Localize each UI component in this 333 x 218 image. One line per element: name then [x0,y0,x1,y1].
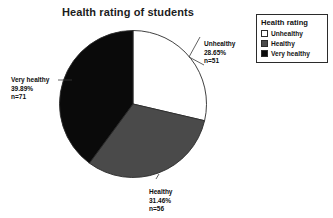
chart-title: Health rating of students [0,6,256,18]
callout-healthy: Healthy 31.46% n=56 [149,188,172,214]
legend-label-very-healthy: Very healthy [271,50,310,58]
callout-very-healthy: Very healthy 39.89% n=71 [11,76,49,102]
callout-very-healthy-category: Very healthy [11,76,49,85]
callout-healthy-percent: 31.46% [149,197,172,206]
callout-unhealthy-count: n=51 [204,57,235,66]
callout-unhealthy-category: Unhealthy [204,40,235,49]
callout-unhealthy-percent: 28.65% [204,49,235,58]
legend-swatch-unhealthy [261,30,268,37]
legend-item-unhealthy[interactable]: Unhealthy [261,29,323,38]
callout-very-healthy-percent: 39.89% [11,85,49,94]
legend: Health rating Unhealthy Healthy Very hea… [256,14,328,63]
legend-title: Health rating [261,18,323,27]
legend-item-healthy[interactable]: Healthy [261,39,323,48]
callout-healthy-count: n=56 [149,205,172,214]
pie-canvas [58,29,208,179]
legend-label-unhealthy: Unhealthy [271,30,303,38]
pie-chart-figure: Health rating of students Unhealthy 28.6… [0,0,333,218]
callout-very-healthy-count: n=71 [11,93,49,102]
callout-healthy-category: Healthy [149,188,172,197]
legend-swatch-healthy [261,40,268,47]
legend-label-healthy: Healthy [271,40,295,48]
callout-unhealthy: Unhealthy 28.65% n=51 [204,40,235,66]
legend-swatch-very-healthy [261,50,268,57]
legend-item-very-healthy[interactable]: Very healthy [261,49,323,58]
